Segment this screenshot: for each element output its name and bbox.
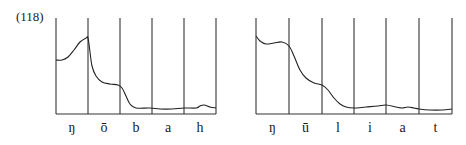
- segment-label: ŋ: [269, 120, 276, 136]
- pitch-contour-line: [56, 37, 216, 109]
- contour-chart-left: [56, 18, 216, 114]
- segment-label: i: [368, 120, 372, 136]
- segment-label: t: [434, 120, 438, 136]
- segment-label: a: [165, 120, 171, 136]
- segment-label: l: [336, 120, 340, 136]
- segment-label: ū: [302, 120, 309, 136]
- segment-label: b: [133, 120, 140, 136]
- segment-label: a: [399, 120, 405, 136]
- contour-chart-right: [256, 18, 452, 114]
- segment-label: ŋ: [69, 120, 76, 136]
- segment-label: h: [197, 120, 204, 136]
- segment-label: ō: [101, 120, 108, 136]
